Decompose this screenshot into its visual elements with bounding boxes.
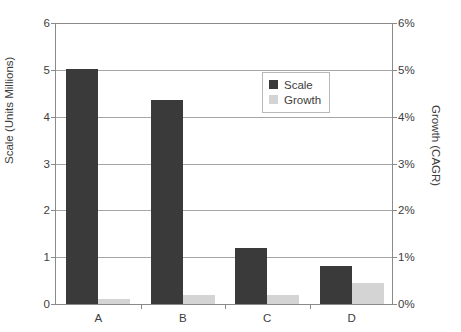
legend-swatch-scale bbox=[269, 80, 278, 89]
y-axis-left-tick-label: 5 bbox=[44, 64, 50, 76]
x-axis-tick-label: C bbox=[263, 312, 271, 324]
bar-group: B bbox=[141, 23, 226, 304]
y-axis-right-tick-label: 6% bbox=[398, 17, 415, 29]
legend-item[interactable]: Growth bbox=[269, 92, 321, 107]
bar-group: A bbox=[56, 23, 141, 304]
bar-groups: ABCD bbox=[56, 23, 392, 304]
x-axis-tick-label: B bbox=[179, 312, 187, 324]
y-axis-left-tick-label: 6 bbox=[44, 17, 50, 29]
bar-growth bbox=[352, 283, 384, 304]
legend-label: Scale bbox=[284, 79, 313, 91]
legend-swatch-growth bbox=[269, 95, 278, 104]
y-axis-left-tick-label: 4 bbox=[44, 111, 50, 123]
bar-scale bbox=[235, 248, 267, 304]
legend: ScaleGrowth bbox=[262, 72, 330, 113]
x-axis-tick-label: A bbox=[94, 312, 102, 324]
x-axis-tick-mark bbox=[310, 304, 311, 309]
y-axis-right-tick-label: 2% bbox=[398, 204, 415, 216]
y-axis-right-tick-label: 3% bbox=[398, 158, 415, 170]
y-axis-right-tick-label: 0% bbox=[398, 298, 415, 310]
y-axis-right-tick-label: 1% bbox=[398, 251, 415, 263]
x-axis-tick-mark bbox=[141, 304, 142, 309]
bar-chart: Scale (Units Millions) Growth (CAGR) 012… bbox=[0, 0, 461, 332]
bar-scale bbox=[151, 100, 183, 304]
legend-item[interactable]: Scale bbox=[269, 77, 321, 92]
plot-area: 0123456 0%1%2%3%4%5%6% ABCD bbox=[55, 23, 393, 305]
y-axis-right-tick-mark bbox=[392, 304, 397, 305]
bar-growth bbox=[267, 295, 299, 304]
x-axis-tick-label: D bbox=[348, 312, 356, 324]
bar-growth bbox=[98, 299, 130, 304]
y-axis-right-tick-label: 5% bbox=[398, 64, 415, 76]
y-axis-right-title: Growth (CAGR) bbox=[430, 105, 442, 186]
x-axis-tick-mark bbox=[225, 304, 226, 309]
bar-growth bbox=[183, 295, 215, 304]
bar-scale bbox=[66, 69, 98, 304]
bar-group: C bbox=[225, 23, 310, 304]
y-axis-left-tick-label: 0 bbox=[44, 298, 50, 310]
bar-scale bbox=[320, 266, 352, 304]
y-axis-right-tick-label: 4% bbox=[398, 111, 415, 123]
bar-group: D bbox=[310, 23, 395, 304]
y-axis-left-title: Scale (Units Millions) bbox=[3, 57, 15, 164]
legend-label: Growth bbox=[284, 94, 321, 106]
y-axis-left-tick-label: 3 bbox=[44, 158, 50, 170]
y-axis-left-tick-mark bbox=[51, 304, 56, 305]
y-axis-left-tick-label: 2 bbox=[44, 204, 50, 216]
y-axis-left-tick-label: 1 bbox=[44, 251, 50, 263]
